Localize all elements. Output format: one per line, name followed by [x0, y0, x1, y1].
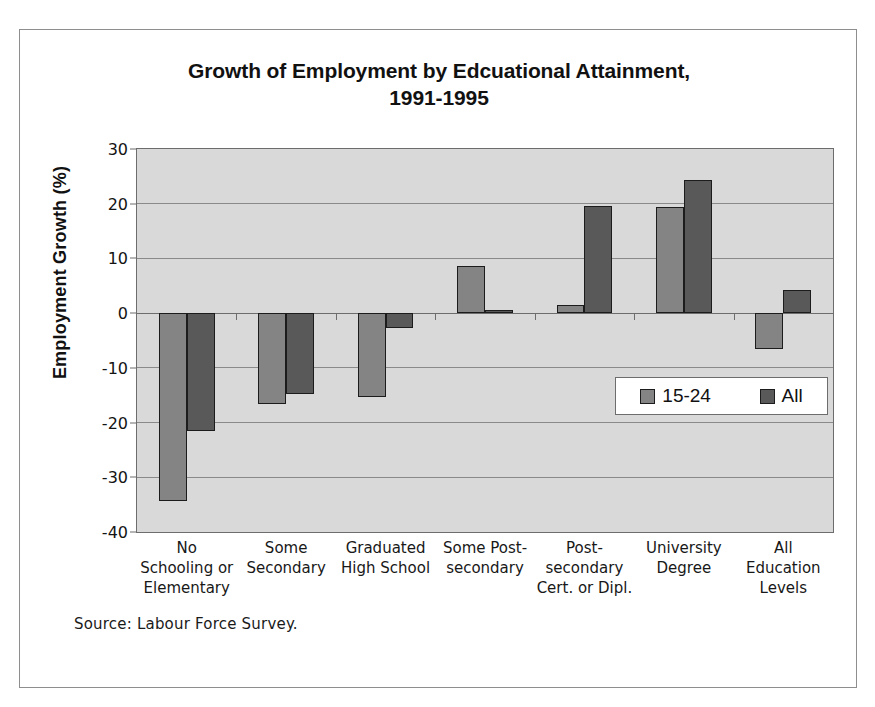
gridline-20: [137, 203, 833, 204]
y-tick-mark-20: [130, 203, 137, 204]
bar-15-24-1: [258, 313, 286, 404]
x-category-label-line: Some Post-: [435, 539, 534, 559]
x-category-label-3: Some Post-secondary: [435, 539, 534, 579]
x-category-label-4: Post-secondaryCert. or Dipl.: [535, 539, 634, 599]
gridline--20: [137, 422, 833, 423]
legend-label-all: All: [782, 385, 803, 407]
bar-all-1: [286, 313, 314, 394]
y-tick-label-20: 20: [108, 194, 128, 213]
bar-all-5: [684, 180, 712, 314]
x-category-label-line: Education: [734, 559, 833, 579]
chart-title-line-2: 1991-1995: [20, 85, 858, 112]
x-category-label-line: All: [734, 539, 833, 559]
y-tick-label-0: 0: [118, 304, 128, 323]
x-category-label-line: Schooling or: [137, 559, 236, 579]
gridline-10: [137, 258, 833, 259]
bar-15-24-0: [159, 313, 187, 501]
x-category-label-line: secondary: [435, 559, 534, 579]
x-category-label-line: secondary: [535, 559, 634, 579]
x-tick-mark-1: [236, 313, 237, 320]
y-tick-mark--20: [130, 422, 137, 423]
chart-figure-frame: Growth of Employment by Edcuational Atta…: [19, 29, 857, 688]
x-tick-mark-5: [634, 313, 635, 320]
x-tick-mark-4: [535, 313, 536, 320]
x-tick-mark-2: [336, 313, 337, 320]
x-category-label-line: Graduated: [336, 539, 435, 559]
legend-swatch-icon-15-24: [640, 389, 655, 404]
y-tick-label-30: 30: [108, 140, 128, 159]
legend-entry-15-24: 15-24: [640, 385, 711, 407]
x-category-label-5: UniversityDegree: [634, 539, 733, 579]
x-category-label-line: High School: [336, 559, 435, 579]
x-tick-mark-3: [435, 313, 436, 320]
source-note: Source: Labour Force Survey.: [74, 615, 298, 633]
x-category-label-line: University: [634, 539, 733, 559]
chart-title-line-1: Growth of Employment by Edcuational Atta…: [188, 59, 690, 82]
bar-all-0: [187, 313, 215, 431]
bar-15-24-6: [755, 313, 783, 349]
bar-all-4: [584, 206, 612, 313]
x-category-label-line: Levels: [734, 579, 833, 599]
y-tick-mark--10: [130, 367, 137, 368]
x-category-label-line: Elementary: [137, 579, 236, 599]
legend-label-15-24: 15-24: [662, 385, 711, 407]
y-tick-mark-0: [130, 313, 137, 314]
x-category-label-line: Post-: [535, 539, 634, 559]
bar-15-24-5: [656, 207, 684, 313]
x-category-label-line: Degree: [634, 559, 733, 579]
bar-all-2: [386, 313, 414, 328]
x-tick-mark-6: [734, 313, 735, 320]
gridline--30: [137, 477, 833, 478]
y-tick-label-10: 10: [108, 249, 128, 268]
x-category-label-line: No: [137, 539, 236, 559]
x-category-label-2: GraduatedHigh School: [336, 539, 435, 579]
x-category-label-line: Some: [236, 539, 335, 559]
bar-all-3: [485, 310, 513, 313]
y-tick-label--30: -30: [102, 468, 128, 487]
x-category-label-0: NoSchooling orElementary: [137, 539, 236, 599]
y-tick-mark-10: [130, 258, 137, 259]
y-tick-mark--30: [130, 477, 137, 478]
y-axis-title: Employment Growth (%): [50, 83, 71, 463]
legend-entry-all: All: [760, 385, 803, 407]
y-tick-label--40: -40: [102, 523, 128, 542]
bar-15-24-4: [557, 305, 585, 313]
x-category-label-line: Secondary: [236, 559, 335, 579]
y-tick-label--20: -20: [102, 413, 128, 432]
x-category-label-line: Cert. or Dipl.: [535, 579, 634, 599]
y-tick-mark-30: [130, 149, 137, 150]
chart-legend: 15-24 All: [615, 377, 828, 415]
y-tick-mark--40: [130, 532, 137, 533]
legend-swatch-icon-all: [760, 389, 775, 404]
chart-title: Growth of Employment by Edcuational Atta…: [20, 58, 858, 112]
bar-15-24-2: [358, 313, 386, 397]
bar-15-24-3: [457, 266, 485, 313]
plot-area: 3020100-10-20-30-40NoSchooling orElement…: [136, 148, 834, 533]
x-category-label-1: SomeSecondary: [236, 539, 335, 579]
x-category-label-6: AllEducationLevels: [734, 539, 833, 599]
bar-all-6: [783, 290, 811, 313]
gridline--10: [137, 367, 833, 368]
y-tick-label--10: -10: [102, 358, 128, 377]
